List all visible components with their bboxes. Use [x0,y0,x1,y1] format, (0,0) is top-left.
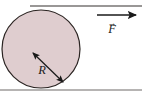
radius-label: R [37,63,46,77]
force-label: F [107,22,116,36]
diagram-canvas: R → F [0,0,142,97]
physics-diagram-figure: R → F [0,0,142,97]
